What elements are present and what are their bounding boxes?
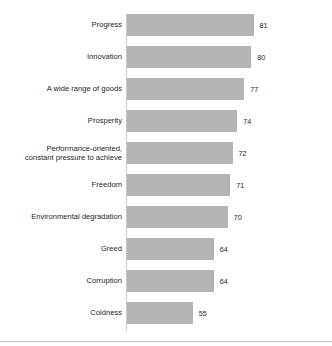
bar-value-label: 81 — [260, 21, 268, 30]
bar-track: 71 — [127, 174, 332, 196]
bar-value-label: 80 — [257, 53, 265, 62]
bar-row: Coldness 55 — [0, 302, 332, 324]
bar-track: 70 — [127, 206, 332, 228]
bar-category-label: Performance-oriented, constant pressure … — [4, 144, 122, 163]
bar-category-label: Progress — [4, 20, 122, 29]
bar-chart: Progress 81 Innovation 80 A wide range o… — [0, 0, 332, 346]
bar-category-label: Environmental degradation — [4, 212, 122, 221]
bar-track: 72 — [127, 142, 332, 164]
bar-category-label: Innovation — [4, 52, 122, 61]
bar-row: A wide range of goods 77 — [0, 78, 332, 100]
bar-row: Greed 64 — [0, 238, 332, 260]
bar-rect — [127, 270, 214, 292]
bar-track: 64 — [127, 270, 332, 292]
bar-row: Freedom 71 — [0, 174, 332, 196]
bar-category-label: Corruption — [4, 276, 122, 285]
bar-rect — [127, 302, 193, 324]
bar-row: Innovation 80 — [0, 46, 332, 68]
bar-value-label: 55 — [199, 309, 207, 318]
bar-rect — [127, 238, 214, 260]
bar-rows: Progress 81 Innovation 80 A wide range o… — [0, 14, 332, 334]
bar-track: 64 — [127, 238, 332, 260]
bar-category-label: Freedom — [4, 180, 122, 189]
bar-value-label: 72 — [239, 149, 247, 158]
bar-track: 81 — [127, 14, 332, 36]
bar-value-label: 77 — [250, 85, 258, 94]
plot-area: Progress 81 Innovation 80 A wide range o… — [0, 14, 332, 331]
bar-rect — [127, 142, 233, 164]
bar-track: 80 — [127, 46, 332, 68]
bar-row: Corruption 64 — [0, 270, 332, 292]
bar-rect — [127, 46, 251, 68]
bar-category-label: Greed — [4, 244, 122, 253]
bar-row: Progress 81 — [0, 14, 332, 36]
bar-row: Performance-oriented, constant pressure … — [0, 142, 332, 164]
bar-value-label: 71 — [236, 181, 244, 190]
bar-row: Prosperity 74 — [0, 110, 332, 132]
bar-rect — [127, 78, 244, 100]
bar-value-label: 70 — [234, 213, 242, 222]
bar-value-label: 64 — [220, 277, 228, 286]
bottom-divider — [0, 341, 332, 342]
bar-track: 55 — [127, 302, 332, 324]
bar-rect — [127, 110, 237, 132]
bar-value-label: 64 — [220, 245, 228, 254]
bar-category-label: A wide range of goods — [4, 84, 122, 93]
bar-rect — [127, 206, 228, 228]
bar-track: 77 — [127, 78, 332, 100]
bar-rect — [127, 14, 254, 36]
bar-row: Environmental degradation 70 — [0, 206, 332, 228]
bar-value-label: 74 — [243, 117, 251, 126]
bar-category-label: Coldness — [4, 308, 122, 317]
bar-category-label: Prosperity — [4, 116, 122, 125]
bar-rect — [127, 174, 230, 196]
bar-track: 74 — [127, 110, 332, 132]
